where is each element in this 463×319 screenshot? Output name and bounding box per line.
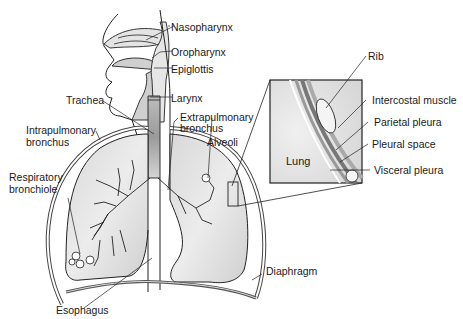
label-extrapulmonary-bronchus-line2: bronchus: [180, 122, 223, 134]
label-larynx: Larynx: [171, 92, 203, 104]
respiratory-diagram: [0, 0, 463, 319]
label-diaphragm: Diaphragm: [266, 265, 317, 277]
label-respiratory-bronchiole-line1: Respiratory: [9, 171, 63, 183]
label-trachea: Trachea: [66, 94, 104, 106]
label-esophagus: Esophagus: [56, 304, 109, 316]
trachea: [148, 96, 160, 178]
pleura-inset: [228, 80, 362, 206]
label-intrapulmonary-bronchus-line2: bronchus: [26, 136, 69, 148]
label-nasopharynx: Nasopharynx: [171, 21, 233, 33]
label-epiglottis: Epiglottis: [171, 63, 214, 75]
label-respiratory-bronchiole-line2: bronchiole: [9, 183, 57, 195]
label-alveoli: Alveoli: [207, 136, 238, 148]
label-parietal-pleura: Parietal pleura: [374, 116, 442, 128]
label-pleural-space: Pleural space: [372, 138, 436, 150]
alveoli-cluster-right: [202, 174, 210, 182]
label-rib: Rib: [368, 50, 384, 62]
label-visceral-pleura: Visceral pleura: [374, 164, 443, 176]
label-oropharynx: Oropharynx: [171, 46, 226, 58]
label-intercostal-muscle: Intercostal muscle: [372, 94, 457, 106]
nasal-cavity: [104, 29, 166, 48]
label-lung: Lung: [286, 155, 310, 167]
label-intrapulmonary-bronchus-line1: Intrapulmonary: [26, 124, 96, 136]
trachea-group: [148, 96, 160, 178]
